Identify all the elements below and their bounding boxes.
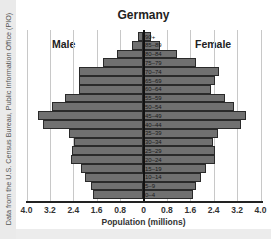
male-bar	[79, 85, 143, 94]
male-bar	[38, 111, 143, 120]
male-bar	[93, 190, 143, 199]
center-axis	[143, 30, 145, 202]
x-tick-label: 0	[141, 205, 146, 215]
x-tick-label: 2.4	[67, 205, 79, 215]
x-tick-label: 2.4	[208, 205, 220, 215]
male-bar	[72, 146, 143, 155]
x-tick-label: 0.8	[114, 205, 126, 215]
male-bar	[52, 102, 143, 111]
age-group-label: 15–19	[145, 165, 162, 173]
age-group-label: 45–49	[145, 112, 162, 120]
age-group-label: 85–89	[145, 41, 162, 49]
male-bar	[65, 94, 144, 103]
male-bar	[71, 155, 143, 164]
x-tick-label: 1.6	[184, 205, 196, 215]
population-pyramid: Male Female 90+85–8980–8475–7970–7465–69…	[0, 0, 271, 239]
x-tick-label: 0.8	[161, 205, 173, 215]
male-bar	[43, 120, 143, 129]
age-group-label: 65–69	[145, 77, 162, 85]
x-tick-label: 3.2	[44, 205, 56, 215]
x-tick-label: 1.6	[91, 205, 103, 215]
age-group-label: 75–79	[145, 59, 162, 67]
male-bar	[132, 41, 144, 50]
x-tick-label: 4.0	[255, 205, 267, 215]
age-group-label: 55–59	[145, 94, 162, 102]
age-group-label: 20–24	[145, 156, 162, 164]
age-group-label: 60–64	[145, 85, 162, 93]
age-group-label: 5–9	[145, 182, 155, 190]
x-axis-label: Population (millions)	[16, 217, 271, 227]
x-tick-label: 3.2	[231, 205, 243, 215]
male-bar	[91, 182, 144, 191]
male-bar	[69, 129, 144, 138]
age-group-label: 90+	[145, 33, 155, 41]
male-bar	[85, 173, 144, 182]
gridline	[27, 30, 28, 201]
male-bar	[117, 50, 143, 59]
male-bar	[81, 164, 144, 173]
male-bar	[103, 58, 143, 67]
age-group-label: 50–54	[145, 103, 162, 111]
age-group-label: 10–14	[145, 173, 162, 181]
x-axis-line	[26, 201, 263, 203]
male-bar	[79, 76, 144, 85]
male-bar	[74, 138, 144, 147]
male-bar	[79, 67, 143, 76]
age-group-label: 0–4	[145, 191, 155, 199]
age-group-label: 35–39	[145, 129, 162, 137]
age-group-label: 40–44	[145, 121, 162, 129]
x-tick-label: 4.0	[21, 205, 33, 215]
age-group-label: 30–34	[145, 138, 162, 146]
age-group-label: 70–74	[145, 68, 162, 76]
gridline	[261, 30, 262, 201]
age-group-label: 80–84	[145, 50, 162, 58]
age-group-label: 25–29	[145, 147, 162, 155]
male-label: Male	[52, 38, 75, 50]
